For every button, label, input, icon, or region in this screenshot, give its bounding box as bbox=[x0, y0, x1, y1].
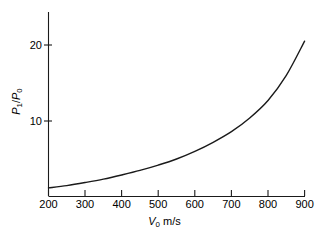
y-axis-title-numerator: P bbox=[10, 107, 22, 114]
x-axis-title-subscript: 0 bbox=[156, 220, 160, 229]
x-axis-ticks bbox=[49, 190, 305, 196]
x-axis-title-symbol: V bbox=[148, 215, 155, 227]
x-tick-label-400: 400 bbox=[102, 199, 142, 210]
y-axis-title: P1/P0 bbox=[11, 72, 22, 132]
x-tick-label-500: 500 bbox=[138, 199, 178, 210]
y-axis-title-numerator-subscript: 1 bbox=[15, 103, 24, 107]
x-axis-title-units: m/s bbox=[163, 215, 181, 227]
y-axis-title-denominator-subscript: 0 bbox=[15, 88, 24, 92]
x-tick-label-800: 800 bbox=[248, 199, 288, 210]
y-axis-title-denominator: P bbox=[10, 93, 22, 100]
x-tick-label-200: 200 bbox=[29, 199, 69, 210]
x-tick-label-700: 700 bbox=[211, 199, 251, 210]
x-tick-label-600: 600 bbox=[175, 199, 215, 210]
x-tick-label-300: 300 bbox=[65, 199, 105, 210]
chart-figure: 10 20 200 300 400 500 600 700 800 900 V0… bbox=[0, 0, 329, 236]
x-tick-label-900: 900 bbox=[285, 199, 325, 210]
y-tick-label-20: 20 bbox=[14, 40, 42, 51]
data-series-line bbox=[49, 41, 305, 188]
x-axis-title: V0 m/s bbox=[0, 216, 329, 227]
